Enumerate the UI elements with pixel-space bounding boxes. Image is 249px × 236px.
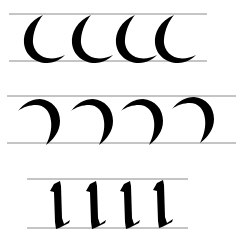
left-crescent-stroke (24, 15, 65, 63)
minim-stroke (50, 181, 70, 229)
minim-stroke (153, 180, 173, 228)
row-left-crescents (9, 14, 207, 63)
left-crescent-stroke (116, 15, 157, 63)
minim-stroke (86, 181, 106, 229)
left-crescent-stroke (155, 15, 196, 63)
left-crescent-stroke (72, 15, 113, 63)
right-crescent-stroke (172, 97, 214, 143)
right-crescent-stroke (121, 99, 163, 145)
row-right-crescents (7, 96, 236, 145)
row-minim-strokes (27, 179, 188, 229)
right-crescent-stroke (71, 99, 113, 145)
calligraphy-practice-sheet (0, 0, 249, 236)
minim-stroke (120, 181, 140, 229)
right-crescent-stroke (18, 99, 60, 145)
